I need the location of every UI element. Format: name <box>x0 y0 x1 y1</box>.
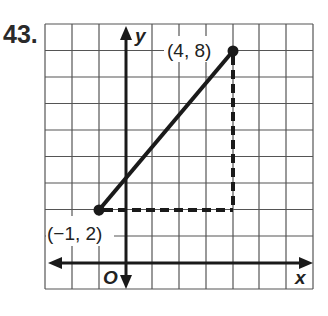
y-axis-label: y <box>134 25 147 46</box>
dashed-legs <box>104 56 233 210</box>
y-axis-up-arrow-icon <box>120 26 132 40</box>
x-axis-label: x <box>294 267 307 288</box>
point-neg1-2 <box>94 205 105 216</box>
label-point-neg1-2: (−1, 2) <box>47 223 102 244</box>
x-axis <box>48 257 313 269</box>
label-point-4-8: (4, 8) <box>167 40 211 61</box>
y-axis <box>120 26 132 289</box>
x-axis-left-arrow-icon <box>48 257 62 269</box>
grid <box>45 24 313 289</box>
y-axis-down-arrow-icon <box>120 275 132 289</box>
coordinate-graph: (4, 8) (−1, 2) y x O <box>0 0 328 316</box>
point-4-8 <box>228 46 239 57</box>
origin-label: O <box>103 267 118 288</box>
